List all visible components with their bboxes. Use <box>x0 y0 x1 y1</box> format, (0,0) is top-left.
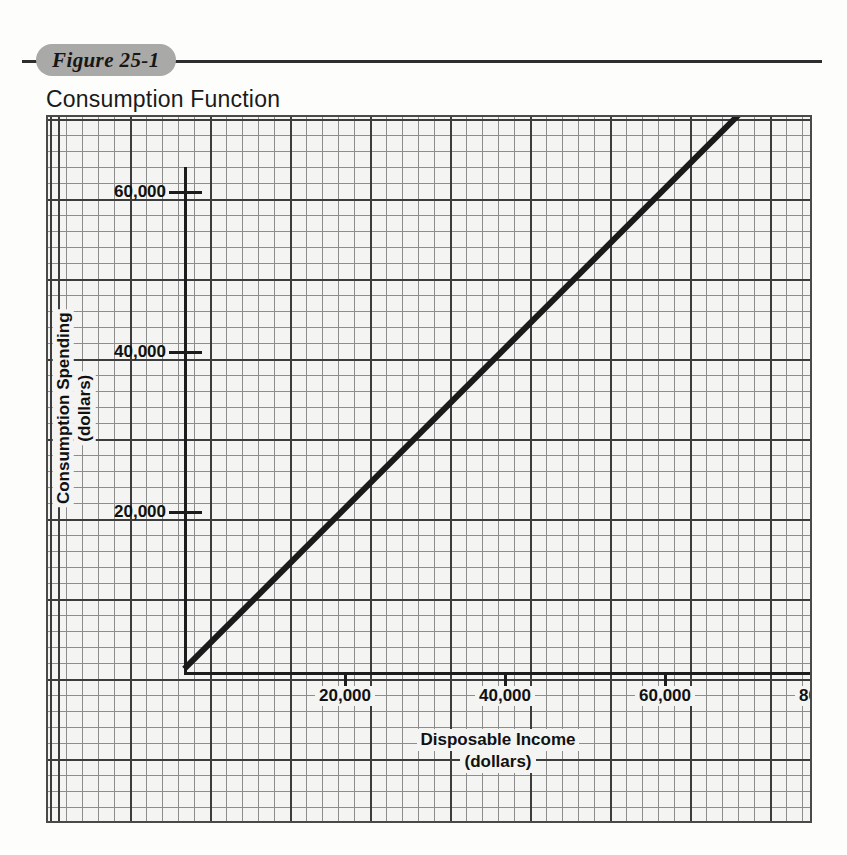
x-axis-title-units: (dollars) <box>460 751 535 773</box>
figure-header: Figure 25-1 <box>0 44 847 78</box>
y-axis-title-units: (dollars) <box>74 372 95 445</box>
x-axis-tick-label: 40,000 <box>475 686 535 706</box>
forty-five-degree-line <box>48 117 810 821</box>
figure-number-badge: Figure 25-1 <box>36 44 176 76</box>
y-axis-line <box>184 167 187 675</box>
y-axis-tick-mark <box>187 351 202 354</box>
y-axis-title: Consumption Spending (dollars) <box>53 228 96 588</box>
figure-number-label: Figure 25-1 <box>52 48 160 73</box>
y-axis-tick-label: 40,000 <box>88 342 166 362</box>
chart-title: Consumption Function <box>46 86 280 113</box>
x-axis-title-text: Disposable Income <box>417 729 580 751</box>
x-axis-tick-label: 20,000 <box>315 686 375 706</box>
y-axis-tick-mark <box>187 191 202 194</box>
y-axis-tick-label: 20,000 <box>88 502 166 522</box>
x-axis-line <box>184 672 812 675</box>
y-axis-title-text: Consumption Spending <box>53 309 74 507</box>
x-axis-tick-label: 80,000 <box>795 686 812 706</box>
y-axis-tick-mark <box>187 511 202 514</box>
y-axis-tick-mark <box>169 511 184 514</box>
y-axis-tick-mark <box>169 351 184 354</box>
x-axis-tick-label: 60,000 <box>635 686 695 706</box>
y-axis-tick-mark <box>169 191 184 194</box>
y-axis-tick-label: 60,000 <box>88 182 166 202</box>
plot-layer: 20,00040,00060,00080,000100,000 20,00040… <box>48 117 810 821</box>
graph-paper-chart-area: 20,00040,00060,00080,000100,000 20,00040… <box>46 115 812 823</box>
x-axis-title: Disposable Income (dollars) <box>184 729 812 773</box>
